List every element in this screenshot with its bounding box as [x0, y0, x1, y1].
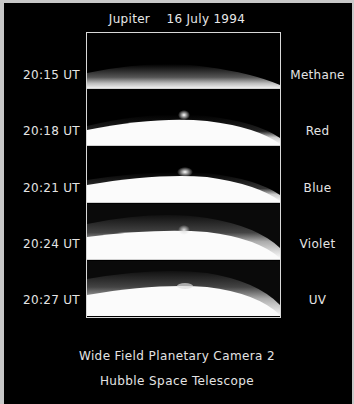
time-label: 20:15 UT — [0, 68, 80, 82]
filter-label: Methane — [281, 68, 354, 82]
instrument-credit: Wide Field Planetary Camera 2 — [0, 349, 354, 363]
image-frame — [86, 32, 281, 318]
jupiter-limb-image — [87, 147, 280, 202]
impact-plume — [178, 110, 190, 120]
jupiter-limb-image — [87, 204, 280, 259]
time-label: 20:24 UT — [0, 237, 80, 251]
filter-label: Violet — [281, 237, 354, 251]
filter-label: UV — [281, 293, 354, 307]
panel-methane — [87, 33, 280, 89]
impact-plume — [178, 225, 190, 235]
jupiter-limb-image — [87, 90, 280, 145]
observatory-credit: Hubble Space Telescope — [0, 374, 354, 388]
time-label: 20:21 UT — [0, 181, 80, 195]
panel-uv — [87, 261, 280, 316]
time-label: 20:27 UT — [0, 293, 80, 307]
jupiter-limb-image — [87, 261, 280, 316]
panel-violet — [87, 204, 280, 260]
impact-plume — [177, 283, 193, 289]
jupiter-limb-image — [87, 33, 280, 88]
filter-label: Red — [281, 124, 354, 138]
filter-label: Blue — [281, 181, 354, 195]
panel-red — [87, 90, 280, 146]
figure-title: Jupiter 16 July 1994 — [0, 12, 354, 26]
planet-limb — [87, 64, 280, 88]
time-label: 20:18 UT — [0, 124, 80, 138]
impact-plume — [177, 167, 193, 177]
panel-blue — [87, 147, 280, 203]
